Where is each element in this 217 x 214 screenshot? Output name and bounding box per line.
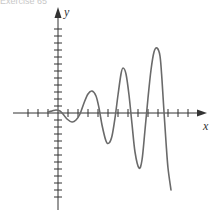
- y-axis-label: y: [63, 5, 70, 19]
- y-axis-arrow-icon: [55, 7, 62, 18]
- x-axis-label: x: [202, 119, 209, 133]
- function-curve: [48, 48, 171, 190]
- axes: [13, 7, 207, 210]
- function-plot: x y: [0, 0, 217, 214]
- x-axis-arrow-icon: [197, 110, 207, 117]
